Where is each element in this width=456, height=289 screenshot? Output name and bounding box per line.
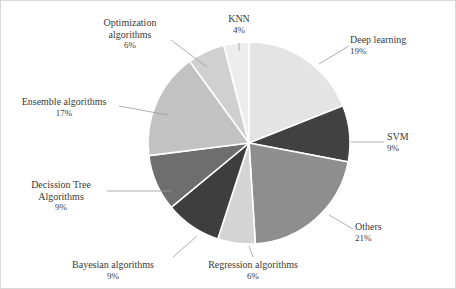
pie-label-regression-percent: 6% [185, 271, 321, 281]
pie-label-regression: Regression algorithms 6% [185, 259, 321, 281]
pie-label-svm-text: SVM [387, 131, 409, 143]
pie-label-others: Others 21% [355, 221, 382, 243]
pie-label-optimization: Optimization algorithms 6% [89, 17, 171, 50]
pie-label-ensemble: Ensemble algorithms 17% [9, 96, 119, 118]
pie-label-decission-tree-text: Decission Tree [15, 179, 107, 191]
pie-label-others-percent: 21% [355, 233, 382, 243]
pie-label-optimization-text: Optimization [89, 17, 171, 29]
pie-label-deep-learning-text: Deep learning [350, 34, 406, 46]
leader-line-bayesian [173, 236, 197, 257]
pie-label-knn-percent: 4% [213, 25, 265, 35]
pie-label-regression-text: Regression algorithms [185, 259, 321, 271]
pie-label-bayesian: Bayesian algorithms 9% [53, 259, 173, 281]
pie-label-deep-learning: Deep learning 19% [350, 34, 406, 56]
leader-line-others [329, 215, 353, 229]
leader-line-regression [249, 246, 253, 257]
pie-label-decission-tree-text2: Algorithms [15, 191, 107, 203]
pie-label-bayesian-text: Bayesian algorithms [53, 259, 173, 271]
pie-label-svm-percent: 9% [387, 143, 409, 153]
pie-label-ensemble-text: Ensemble algorithms [9, 96, 119, 108]
pie-label-svm: SVM 9% [387, 131, 409, 153]
pie-chart-figure: Deep learning 19% SVM 9% Others 21% Regr… [0, 0, 456, 289]
pie-label-knn: KNN 4% [213, 13, 265, 35]
pie-label-optimization-percent: 6% [89, 40, 171, 50]
leader-line-deep-learning [319, 46, 349, 64]
pie-label-decission-tree: Decission Tree Algorithms 9% [15, 179, 107, 212]
pie-label-decission-tree-percent: 9% [15, 202, 107, 212]
pie-label-others-text: Others [355, 221, 382, 233]
pie-label-knn-text: KNN [213, 13, 265, 25]
pie-label-optimization-text2: algorithms [89, 29, 171, 41]
pie-label-bayesian-percent: 9% [53, 271, 173, 281]
pie-slices-group [148, 42, 350, 244]
pie-label-deep-learning-percent: 19% [350, 46, 406, 56]
pie-label-ensemble-percent: 17% [9, 108, 119, 118]
